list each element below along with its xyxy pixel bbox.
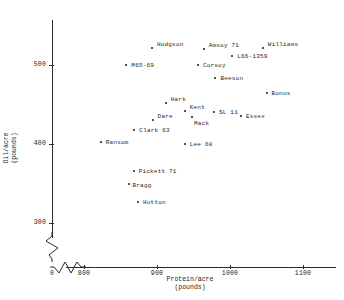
data-point[interactable] bbox=[133, 129, 135, 131]
x-axis-tick-label: 0 bbox=[37, 270, 67, 277]
x-axis-tick bbox=[157, 265, 158, 269]
y-axis-tick-label: 300 bbox=[24, 219, 46, 226]
y-axis-tick bbox=[49, 144, 54, 145]
x-axis-tick-label: 1100 bbox=[288, 270, 318, 277]
data-point[interactable] bbox=[152, 119, 154, 121]
x-axis-line bbox=[66, 267, 336, 268]
data-point-label: Pickett 71 bbox=[139, 168, 177, 175]
data-point-label: Williams bbox=[268, 41, 298, 48]
data-point-label: Ransom bbox=[106, 139, 129, 146]
data-point[interactable] bbox=[240, 115, 242, 117]
y-axis-tick-label: 400 bbox=[24, 140, 46, 147]
x-axis-tick-label: 800 bbox=[69, 270, 99, 277]
x-axis-tick-label: 1000 bbox=[215, 270, 245, 277]
x-axis-tick bbox=[303, 265, 304, 269]
data-point-label: Corsoy bbox=[203, 62, 226, 69]
x-axis-tick-label: 900 bbox=[142, 270, 172, 277]
data-point[interactable] bbox=[165, 102, 167, 104]
x-axis-tick bbox=[84, 265, 85, 269]
data-point[interactable] bbox=[266, 92, 268, 94]
scatter-plot: Oil/acre (pounds) Protein/acre (pounds) … bbox=[0, 0, 344, 300]
y-axis-title: Oil/acre (pounds) bbox=[3, 118, 19, 178]
y-axis-tick-label: 500 bbox=[24, 61, 46, 68]
data-point-label: Bragg bbox=[133, 182, 152, 189]
data-point[interactable] bbox=[184, 143, 186, 145]
y-axis-line bbox=[52, 20, 53, 238]
data-point[interactable] bbox=[262, 47, 264, 49]
data-point-label: Bonus bbox=[272, 90, 291, 97]
data-point[interactable] bbox=[137, 201, 139, 203]
data-point-label: Amsoy 71 bbox=[209, 42, 239, 49]
data-point-label: Hodgson bbox=[157, 41, 184, 48]
data-point[interactable] bbox=[128, 183, 130, 185]
y-axis-tick bbox=[49, 223, 54, 224]
data-point-label: Hutton bbox=[143, 199, 166, 206]
data-point[interactable] bbox=[151, 47, 153, 49]
data-point-label: Hark bbox=[171, 96, 186, 103]
data-point[interactable] bbox=[100, 141, 102, 143]
data-point-label: L66-1359 bbox=[237, 53, 267, 60]
data-point-label: Dare bbox=[158, 113, 173, 120]
data-point[interactable] bbox=[184, 110, 186, 112]
data-point-label: M65-69 bbox=[131, 62, 154, 69]
data-point[interactable] bbox=[125, 64, 127, 66]
data-point-label: SL 11 bbox=[219, 109, 238, 116]
data-point[interactable] bbox=[231, 55, 233, 57]
data-point[interactable] bbox=[213, 111, 215, 113]
data-point-label: Beeson bbox=[220, 75, 243, 82]
data-point[interactable] bbox=[133, 170, 135, 172]
x-axis-tick bbox=[230, 265, 231, 269]
data-point[interactable] bbox=[203, 48, 205, 50]
data-point-label: Clark 63 bbox=[139, 127, 169, 134]
data-point-label: Mack bbox=[194, 120, 209, 127]
data-point[interactable] bbox=[214, 77, 216, 79]
data-point-label: Kent bbox=[190, 104, 205, 111]
y-axis-tick bbox=[49, 65, 54, 66]
x-axis-title: Protein/acre (pounds) bbox=[130, 276, 250, 292]
data-point[interactable] bbox=[191, 116, 193, 118]
data-point[interactable] bbox=[197, 64, 199, 66]
data-point-label: Essex bbox=[246, 113, 265, 120]
data-point-label: Lee 68 bbox=[190, 141, 213, 148]
